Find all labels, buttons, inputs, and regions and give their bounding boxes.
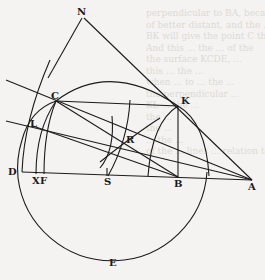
label-b: B: [174, 178, 182, 189]
label-d: D: [8, 166, 17, 177]
label-x: X: [32, 175, 40, 186]
line-c-to-k: [56, 101, 178, 106]
label-c: C: [51, 90, 59, 101]
arc-c-to-k: [56, 82, 178, 106]
arc-through-l: [22, 60, 50, 172]
circle-arc-left: [18, 101, 56, 178]
label-n: N: [77, 6, 86, 17]
line-c-to-b: [56, 101, 178, 177]
label-a: A: [247, 181, 256, 192]
figure-page: perpendicular to BA, because the same of…: [0, 0, 265, 280]
label-e: E: [109, 257, 117, 268]
line-d-a: [22, 172, 252, 180]
arc-k-left: [148, 106, 178, 176]
line-n-a: [84, 18, 252, 180]
label-r: R: [126, 134, 135, 145]
label-s: S: [104, 176, 111, 187]
label-l: L: [30, 118, 37, 129]
label-k: K: [181, 95, 190, 106]
label-f: F: [40, 175, 47, 186]
line-n-left: [48, 18, 82, 78]
geometry-diagram: N C K L R D X F S B A E: [0, 0, 265, 280]
